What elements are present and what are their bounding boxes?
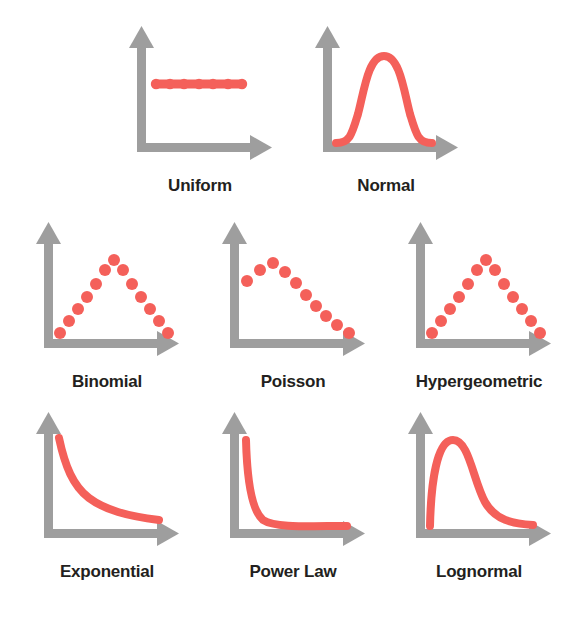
binomial-pmf-dots: [54, 254, 174, 339]
lognormal-distribution-icon: [399, 408, 559, 560]
hypergeometric-distribution-icon: [399, 218, 559, 370]
distribution-row-middle: Binomial: [0, 218, 586, 408]
panel-uniform: Uniform: [107, 22, 293, 196]
poisson-distribution-icon: [213, 218, 373, 370]
axes: [129, 26, 272, 160]
exponential-distribution-icon: [27, 408, 187, 560]
normal-density-curve: [336, 56, 432, 143]
panel-label-exponential: Exponential: [60, 563, 154, 582]
axes: [36, 412, 179, 546]
panel-exponential: Exponential: [14, 408, 200, 582]
axes: [222, 222, 365, 356]
panel-poisson: Poisson: [200, 218, 386, 392]
hypergeometric-pmf-dots: [426, 254, 546, 339]
uniform-distribution-icon: [120, 22, 280, 174]
panel-label-normal: Normal: [357, 177, 414, 196]
panel-label-hypergeometric: Hypergeometric: [416, 373, 543, 392]
lognormal-density-curve: [430, 440, 533, 526]
panel-hypergeometric: Hypergeometric: [386, 218, 572, 392]
binomial-distribution-icon: [27, 218, 187, 370]
panel-label-uniform: Uniform: [168, 177, 232, 196]
panel-label-poisson: Poisson: [261, 373, 326, 392]
distribution-gallery: Uniform Normal: [0, 0, 586, 630]
panel-normal: Normal: [293, 22, 479, 196]
panel-label-lognormal: Lognormal: [436, 563, 522, 582]
distribution-row-top: Uniform Normal: [0, 0, 586, 218]
panel-lognormal: Lognormal: [386, 408, 572, 582]
panel-label-power-law: Power Law: [249, 563, 336, 582]
normal-distribution-icon: [306, 22, 466, 174]
panel-power-law: Power Law: [200, 408, 386, 582]
poisson-pmf-dots: [241, 257, 355, 339]
panel-binomial: Binomial: [14, 218, 200, 392]
power-law-distribution-icon: [213, 408, 373, 560]
distribution-row-bottom: Exponential Power Law: [0, 408, 586, 628]
panel-label-binomial: Binomial: [72, 373, 142, 392]
exponential-density-curve: [59, 438, 159, 520]
power-law-density-curve: [246, 440, 347, 526]
